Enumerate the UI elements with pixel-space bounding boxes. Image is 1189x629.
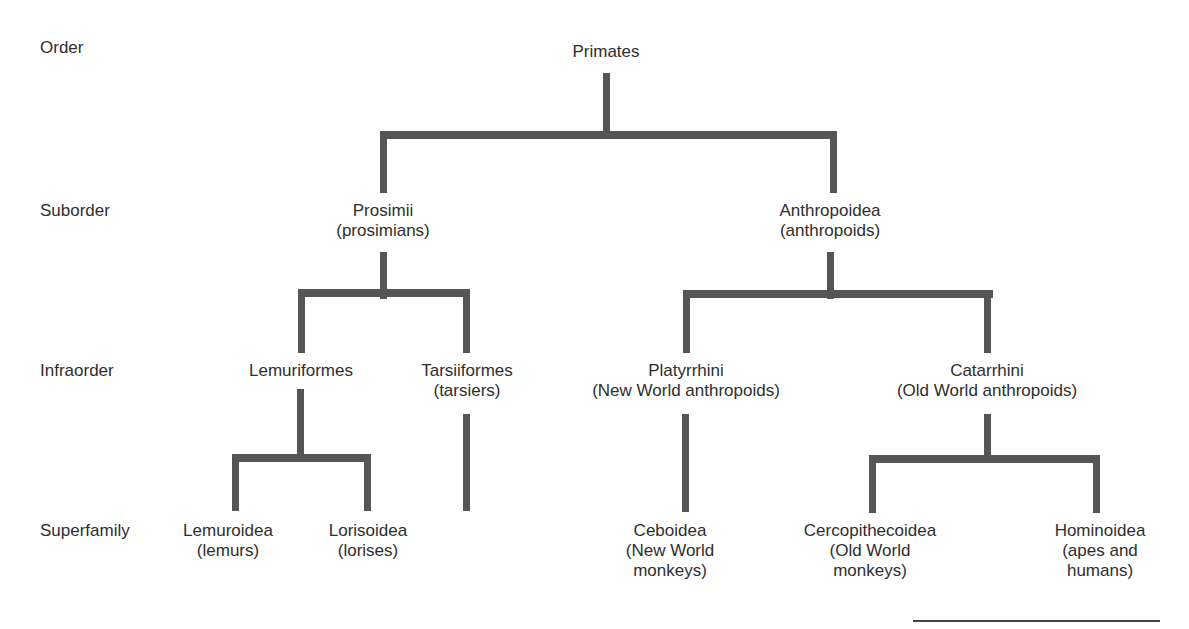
connector-lemuriformes-stem [297,389,304,457]
node-name: Lorisoidea [329,521,407,541]
rank-label-order: Order [40,38,83,58]
node-name: Hominoidea [1055,521,1146,541]
node-common-name-line2: monkeys) [626,561,714,581]
connector-to-hominoidea [1093,455,1100,513]
connector-tarsiiformes-stem [463,414,470,511]
node-common-name: (prosimians) [336,221,430,241]
rank-label-infraorder: Infraorder [40,361,114,381]
node-common-name-line2: monkeys) [804,561,936,581]
node-name: Prosimii [336,201,430,221]
connector-to-lemuroidea [232,454,239,511]
connector-catarrhini-stem [984,414,991,459]
node-common-name: (lorises) [329,541,407,561]
node-primates: Primates [572,42,639,62]
node-name: Tarsiiformes [421,361,513,381]
node-common-name-line2: humans) [1055,561,1146,581]
node-name: Catarrhini [897,361,1077,381]
node-name: Cercopithecoidea [804,521,936,541]
node-common-name: (Old World anthropoids) [897,381,1077,401]
node-common-name: (tarsiers) [421,381,513,401]
node-lorisoidea: Lorisoidea (lorises) [329,521,407,561]
rank-label-suborder: Suborder [40,201,110,221]
connector-anthropoidea-crossbar [683,290,993,298]
node-cercopithecoidea: Cercopithecoidea (Old World monkeys) [804,521,936,581]
connector-primates-crossbar [380,131,837,139]
connector-to-platyrrhini [683,290,690,353]
node-common-name-line1: (apes and [1055,541,1146,561]
node-name: Anthropoidea [779,201,880,221]
node-common-name: (lemurs) [183,541,273,561]
node-name: Lemuriformes [249,361,353,381]
connector-primates-stem [603,73,610,135]
connector-to-cercopithecoidea [869,455,876,513]
node-ceboidea: Ceboidea (New World monkeys) [626,521,714,581]
rank-label-superfamily: Superfamily [40,521,130,541]
node-hominoidea: Hominoidea (apes and humans) [1055,521,1146,581]
connector-to-anthropoidea [830,131,837,193]
node-tarsiiformes: Tarsiiformes (tarsiers) [421,361,513,401]
node-prosimii: Prosimii (prosimians) [336,201,430,241]
connector-platyrrhini-stem [682,414,689,512]
node-platyrrhini: Platyrrhini (New World anthropoids) [592,361,780,401]
node-name: Primates [572,42,639,62]
node-name: Lemuroidea [183,521,273,541]
connector-to-catarrhini [984,290,991,353]
node-anthropoidea: Anthropoidea (anthropoids) [779,201,880,241]
node-common-name-line1: (Old World [804,541,936,561]
node-name: Ceboidea [626,521,714,541]
node-common-name: (anthropoids) [779,221,880,241]
connector-lemuriformes-crossbar [232,454,371,462]
bottom-rule-divider [913,620,1160,622]
connector-to-lemuriformes [298,289,305,353]
node-name: Platyrrhini [592,361,780,381]
node-common-name-line1: (New World [626,541,714,561]
connector-catarrhini-crossbar [869,455,1100,463]
node-lemuroidea: Lemuroidea (lemurs) [183,521,273,561]
node-lemuriformes: Lemuriformes [249,361,353,381]
node-common-name: (New World anthropoids) [592,381,780,401]
connector-prosimii-crossbar [298,289,470,297]
connector-to-prosimii [380,131,387,193]
connector-to-lorisoidea [364,454,371,511]
connector-to-tarsiiformes [463,289,470,353]
node-catarrhini: Catarrhini (Old World anthropoids) [897,361,1077,401]
